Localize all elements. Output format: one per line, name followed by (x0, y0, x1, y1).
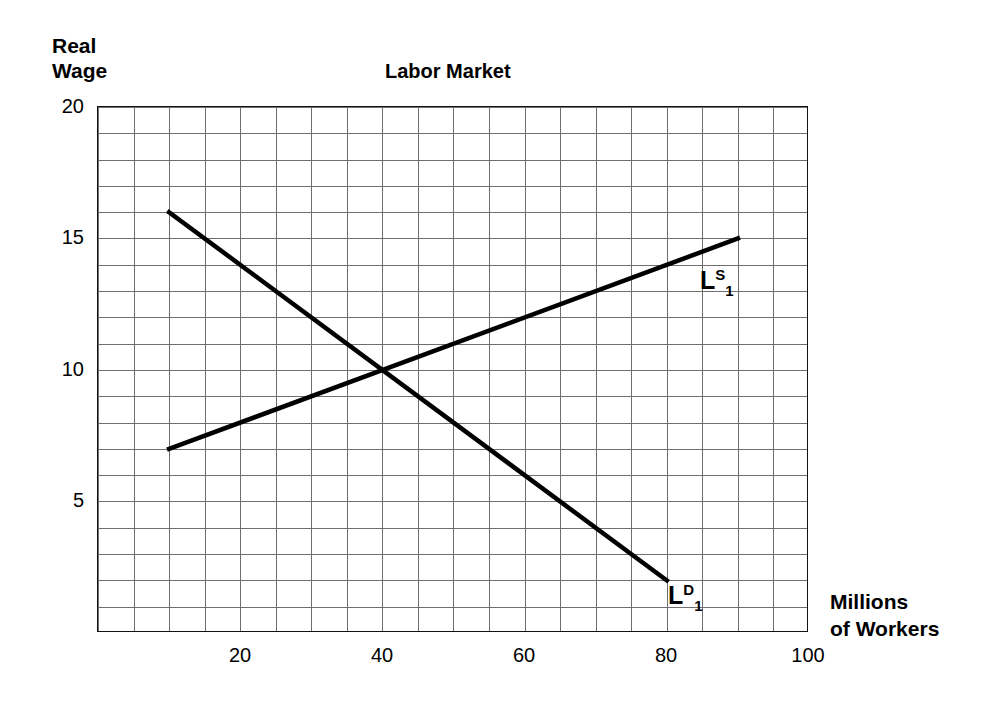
y-axis-title: Real Wage (52, 33, 107, 83)
x-tick-label-20: 20 (210, 645, 270, 665)
x-tick-label-60: 60 (494, 645, 554, 665)
curves-layer (98, 107, 809, 633)
y-axis-title-line1: Real (52, 33, 107, 58)
labor-demand-curve (169, 212, 667, 580)
x-tick-label-100: 100 (778, 645, 838, 665)
demand-label-base: L (668, 581, 683, 609)
labor-supply-curve (169, 239, 738, 449)
x-axis-title-line2: of Workers (830, 615, 939, 642)
x-tick-label-80: 80 (636, 645, 696, 665)
y-tick-label-15: 15 (38, 227, 84, 247)
y-tick-label-5: 5 (38, 490, 84, 510)
x-axis-title: Millions of Workers (830, 588, 939, 642)
supply-label-base: L (700, 266, 715, 294)
demand-label-sub: 1 (694, 597, 702, 614)
x-tick-label-40: 40 (352, 645, 412, 665)
plot-area (97, 106, 808, 632)
x-axis-title-line1: Millions (830, 588, 939, 615)
chart-title: Labor Market (385, 60, 511, 83)
labor-supply-label: LS1 (700, 262, 734, 303)
y-tick-label-20: 20 (38, 96, 84, 116)
labor-demand-label: LD1 (668, 577, 702, 618)
supply-label-sub: 1 (725, 282, 733, 299)
chart-canvas: Real Wage Labor Market Millions of Worke… (0, 0, 1001, 706)
y-tick-label-10: 10 (38, 359, 84, 379)
y-axis-title-line2: Wage (52, 58, 107, 83)
supply-label-sup: S (715, 266, 725, 283)
demand-label-sup: D (683, 581, 694, 598)
